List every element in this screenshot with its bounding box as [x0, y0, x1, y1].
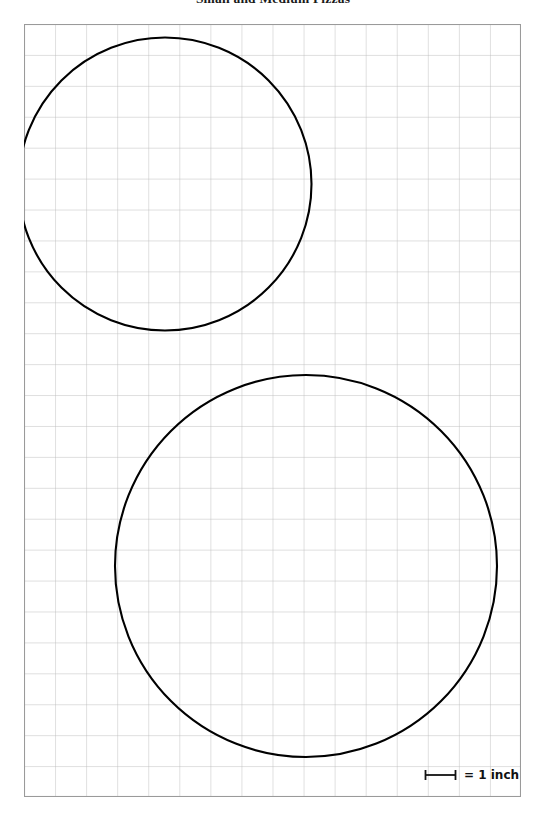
scale-bar-icon [424, 767, 458, 783]
grid-and-shapes-svg [24, 24, 521, 797]
page-title-container: Small and Medium Pizzas [0, 0, 546, 11]
grid-lines [24, 24, 521, 797]
scale-legend-label: = 1 inch [464, 768, 519, 782]
grid-sheet [24, 24, 521, 797]
scale-legend: = 1 inch [424, 762, 519, 788]
worksheet-page: Small and Medium Pizzas = 1 inch [0, 0, 546, 819]
page-title: Small and Medium Pizzas [0, 0, 546, 7]
